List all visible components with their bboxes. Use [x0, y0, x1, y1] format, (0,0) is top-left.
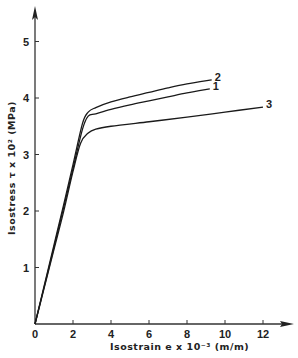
y-tick-label: 5 [23, 36, 29, 48]
axes [32, 6, 294, 327]
x-tick-label: 2 [70, 328, 76, 340]
x-tick-label: 10 [219, 328, 231, 340]
series-line-3 [35, 107, 263, 324]
y-tick-label: 2 [23, 205, 29, 217]
series-line-2 [35, 80, 212, 324]
series-label-2: 2 [215, 71, 221, 83]
y-axis-ticks: 12345 [23, 36, 39, 274]
y-tick-label: 4 [23, 92, 30, 104]
y-axis-title: Isostress τ x 10² (MPa) [6, 101, 17, 235]
x-tick-label: 4 [108, 328, 115, 340]
x-tick-label: 12 [257, 328, 269, 340]
x-tick-label: 0 [32, 328, 38, 340]
y-tick-label: 1 [23, 262, 29, 274]
x-axis-arrow-icon [280, 321, 294, 327]
y-tick-label: 3 [23, 149, 29, 161]
x-tick-label: 8 [184, 328, 190, 340]
x-axis-ticks: 024681012 [32, 320, 269, 340]
x-tick-label: 6 [146, 328, 152, 340]
series-label-3: 3 [266, 98, 272, 110]
stress-strain-chart: 024681012 12345 123 Isostrain e x 10⁻³ (… [0, 0, 298, 358]
series-lines: 123 [35, 71, 272, 324]
x-axis-title: Isostrain e x 10⁻³ (m/m) [110, 341, 249, 352]
